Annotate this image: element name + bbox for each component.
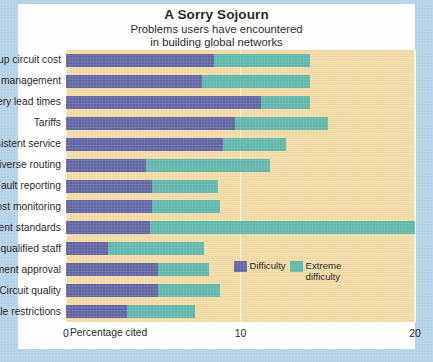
bar-category-label: Resale restrictions [0,306,61,318]
bar-segment-extreme-difficulty [127,305,195,318]
chart-legend: DifficultyExtreme difficulty [234,260,342,282]
bar-segment-difficulty [66,221,150,234]
bar-row[interactable]: Fault reporting [66,180,415,193]
bar-segment-extreme-difficulty [235,117,327,130]
bar-segment-difficulty [66,305,127,318]
bar-category-label: Fault reporting [0,180,61,192]
plot-area: Backup circuit costNo end-to-end managem… [66,50,415,322]
bar-row[interactable]: No end-to-end management [66,75,415,88]
bar-row[interactable]: Circuit quality [66,284,415,297]
title-block: A Sorry Sojourn Problems users have enco… [18,4,415,52]
figure-card: A Sorry Sojourn Problems users have enco… [18,4,415,349]
bar-segment-extreme-difficulty [150,221,415,234]
bar-row[interactable]: Lack of qualified staff [66,242,415,255]
chart-title: A Sorry Sojourn [18,4,415,23]
bar-segment-difficulty [66,96,261,109]
x-axis-strip: Percentage cited 01020 [18,322,415,349]
bar-segment-extreme-difficulty [152,200,220,213]
chart-subtitle-line-1: Problems users have encountered [18,23,415,36]
bar-category-label: Cost monitoring [0,201,61,213]
bar-segment-difficulty [66,263,158,276]
bar-segment-extreme-difficulty [152,180,218,193]
legend-swatch-difficulty [234,261,247,272]
bar-category-label: Equipment approval [0,264,61,276]
bar-segment-difficulty [66,180,152,193]
bar-segment-difficulty [66,138,223,151]
legend-swatch-extreme-difficulty [290,261,303,272]
legend-label: Extreme difficulty [306,260,342,282]
bar-segment-difficulty [66,284,158,297]
bar-segment-extreme-difficulty [223,138,286,151]
bar-row[interactable]: Backup circuit cost [66,54,415,67]
chart-subtitle-line-2: in building global networks [18,36,415,49]
bar-row[interactable]: Inconsistent service [66,138,415,151]
chart-page: A Sorry Sojourn Problems users have enco… [0,0,433,362]
bar-category-label: Delivery lead times [0,96,61,108]
legend-item[interactable]: Difficulty [234,260,286,272]
x-axis-title: Percentage cited [70,327,147,338]
bar-segment-extreme-difficulty [261,96,310,109]
bar-segment-extreme-difficulty [158,284,219,297]
x-tick-label-10: 10 [235,327,247,339]
x-tick-label-0: 0 [63,327,69,339]
bar-segment-difficulty [66,242,108,255]
bar-segment-extreme-difficulty [214,54,310,67]
bar-row[interactable]: Delivery lead times [66,96,415,109]
bar-row[interactable]: No diverse routing [66,159,415,172]
bar-category-label: Tariffs [34,117,61,129]
bar-segment-difficulty [66,54,214,67]
legend-label: Difficulty [250,260,286,271]
bar-segment-difficulty [66,117,235,130]
bar-category-label: No diverse routing [0,159,61,171]
bar-row[interactable]: Inconsistent standards [66,221,415,234]
x-tick-label-20: 20 [409,327,421,339]
bar-segment-extreme-difficulty [158,263,209,276]
legend-item[interactable]: Extreme difficulty [290,260,342,282]
bar-segment-extreme-difficulty [146,159,270,172]
bar-category-label: No end-to-end management [0,75,61,87]
bar-segment-difficulty [66,159,146,172]
bar-category-label: Circuit quality [0,285,61,297]
bar-category-label: Inconsistent standards [0,222,61,234]
bar-row[interactable]: Cost monitoring [66,200,415,213]
bar-category-label: Backup circuit cost [0,54,61,66]
bar-category-label: Inconsistent service [0,138,61,150]
bar-segment-extreme-difficulty [108,242,204,255]
bar-row[interactable]: Resale restrictions [66,305,415,318]
bar-row[interactable]: Tariffs [66,117,415,130]
bar-segment-difficulty [66,75,202,88]
bar-category-label: Lack of qualified staff [0,243,61,255]
bar-segment-extreme-difficulty [202,75,310,88]
bar-segment-difficulty [66,200,152,213]
